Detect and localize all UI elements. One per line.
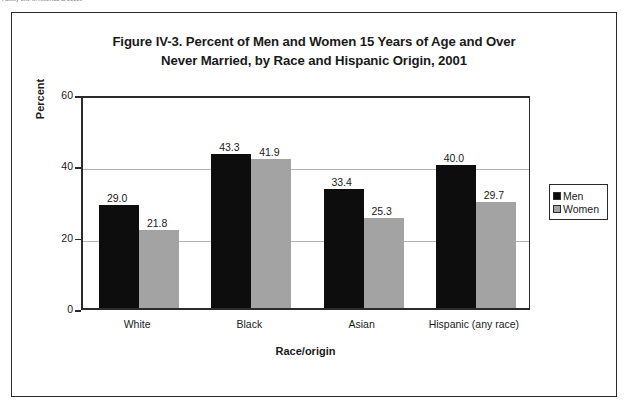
chart-title-line-2: Never Married, by Race and Hispanic Orig… xyxy=(12,52,616,71)
legend-swatch-icon xyxy=(553,192,561,200)
bar-women-black xyxy=(251,159,291,308)
bar-value-label: 33.4 xyxy=(316,176,368,188)
bar-women-white xyxy=(139,230,179,308)
bar-men-black xyxy=(211,154,251,308)
bar-men-hispanic xyxy=(436,165,476,308)
y-tick-label: 40 xyxy=(43,160,73,172)
x-category-label: Hispanic (any race) xyxy=(398,318,550,330)
chart-title-line-1: Figure IV-3. Percent of Men and Women 15… xyxy=(12,33,616,52)
bar-value-label: 40.0 xyxy=(428,152,480,164)
clipped-page-caption: Family Life in America at 2000s xyxy=(2,0,82,2)
y-tick-label: 0 xyxy=(43,303,73,315)
bar-value-label: 25.3 xyxy=(356,205,408,217)
x-axis-title: Race/origin xyxy=(81,345,530,357)
chart-title: Figure IV-3. Percent of Men and Women 15… xyxy=(12,33,616,70)
bar-women-hispanic xyxy=(476,202,516,308)
bar-value-label: 21.8 xyxy=(131,217,183,229)
y-tick-label: 20 xyxy=(43,232,73,244)
bar-value-label: 29.0 xyxy=(91,192,143,204)
y-tick-mark xyxy=(75,310,81,312)
legend-item-men: Men xyxy=(553,189,603,202)
plot-area xyxy=(81,96,530,310)
figure-frame: Figure IV-3. Percent of Men and Women 15… xyxy=(11,12,617,397)
chart-legend: MenWomen xyxy=(549,184,608,220)
legend-label: Men xyxy=(563,190,583,202)
y-tick-label: 60 xyxy=(43,89,73,101)
bar-value-label: 41.9 xyxy=(243,146,295,158)
legend-swatch-icon xyxy=(553,205,561,213)
legend-item-women: Women xyxy=(553,202,603,215)
legend-label: Women xyxy=(563,203,599,215)
bar-women-asian xyxy=(364,218,404,308)
bar-value-label: 29.7 xyxy=(468,189,520,201)
